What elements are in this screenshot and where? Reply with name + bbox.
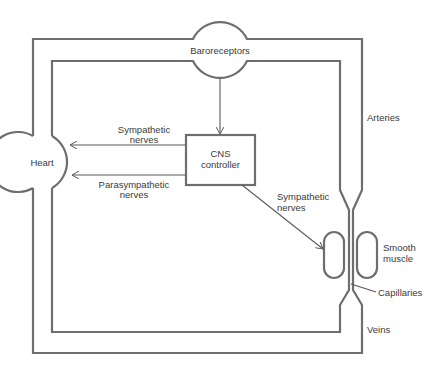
smooth-muscle-left (324, 232, 344, 278)
veins-label: Veins (367, 324, 390, 335)
arteries-label: Arteries (367, 112, 400, 123)
cns-label-line2: controller (186, 159, 255, 170)
heart-label: Heart (22, 157, 62, 168)
parasympathetic-label-line2: nerves (94, 189, 174, 200)
outer-vessel-wall (33, 22, 362, 353)
sympathetic-muscle-label-line1: Sympathetic (277, 191, 329, 202)
cns-label-line1: CNS (186, 148, 255, 159)
smooth-muscle-right (357, 232, 377, 278)
smooth-muscle-label-line1: Smooth (383, 242, 416, 253)
sympathetic-muscle-label-line2: nerves (277, 202, 306, 213)
capillaries-label: Capillaries (378, 287, 422, 298)
baroreceptors-label: Baroreceptors (184, 45, 256, 56)
sympathetic-heart-label-line2: nerves (104, 134, 184, 145)
smooth-muscle-label-line2: muscle (383, 253, 413, 264)
